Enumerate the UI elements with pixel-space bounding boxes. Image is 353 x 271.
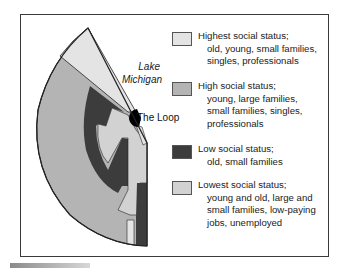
legend-line: old, young, small families, bbox=[198, 43, 338, 56]
legend-line: old, small families bbox=[198, 156, 338, 169]
swatch-highest bbox=[172, 32, 192, 46]
legend-line: singles, professionals bbox=[198, 55, 338, 68]
the-loop-label: The Loop bbox=[137, 112, 179, 123]
legend-text-low: Low social status; old, small families bbox=[198, 143, 338, 168]
lake-label-line-1: Lake bbox=[122, 60, 160, 73]
legend-line: small families, low-paying bbox=[198, 204, 338, 217]
legend-title: Low social status; bbox=[198, 143, 274, 154]
zone-lowest-status-strip bbox=[127, 220, 134, 245]
legend-title: High social status; bbox=[198, 80, 276, 91]
legend-text-high: High social status; young, large familie… bbox=[198, 80, 338, 130]
legend-title: Lowest social status; bbox=[198, 179, 287, 190]
swatch-lowest bbox=[172, 181, 192, 195]
lake-michigan-label: Lake Michigan bbox=[122, 60, 160, 86]
swatch-high bbox=[172, 82, 192, 96]
legend-title: Highest social status; bbox=[198, 30, 289, 41]
lake-label-line-2: Michigan bbox=[122, 73, 160, 86]
legend-line: young and old, large and bbox=[198, 192, 338, 205]
swatch-low bbox=[172, 145, 192, 159]
legend-line: young, large families, bbox=[198, 93, 338, 106]
legend-line: small families, singles, bbox=[198, 105, 338, 118]
legend-line: jobs, unemployed bbox=[198, 217, 338, 230]
zone-low-status-south bbox=[136, 183, 147, 246]
legend-text-highest: Highest social status; old, young, small… bbox=[198, 30, 338, 68]
decorative-bottom-bar bbox=[10, 263, 90, 268]
legend-text-lowest: Lowest social status; young and old, lar… bbox=[198, 179, 338, 229]
legend-line: professionals bbox=[198, 118, 338, 131]
